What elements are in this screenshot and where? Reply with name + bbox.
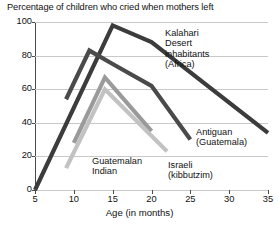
x-tick-label-10: 10 [69, 195, 79, 204]
y-tick-label-80: 80 [4, 51, 32, 60]
y-tick-mark-80 [32, 56, 35, 57]
x-tick-label-30: 30 [224, 195, 234, 204]
y-tick-label-20: 20 [4, 152, 32, 161]
chart-title: Percentage of children who cried when mo… [7, 2, 213, 12]
series-label-israeli: Israeli (kibbutzim) [168, 160, 213, 181]
series-label-guatemalan: Guatemalan Indian [92, 156, 142, 177]
x-tick-label-5: 5 [32, 195, 37, 204]
y-tick-label-60: 60 [4, 85, 32, 94]
chart-container: Percentage of children who cried when mo… [0, 0, 279, 226]
x-tick-label-20: 20 [146, 195, 156, 204]
series-label-kalahari: Kalahari Desert inhabitants (Africa) [165, 28, 209, 70]
y-tick-label-0: 0 [4, 185, 32, 194]
x-axis-title: Age (in months) [0, 207, 279, 218]
x-tick-label-25: 25 [185, 195, 195, 204]
y-tick-label-40: 40 [4, 118, 32, 127]
series-lines [35, 22, 268, 190]
series-line-0 [35, 25, 268, 190]
y-tick-mark-40 [32, 123, 35, 124]
x-tick-label-15: 15 [107, 195, 117, 204]
y-tick-mark-60 [32, 89, 35, 90]
y-tick-mark-100 [32, 22, 35, 23]
series-label-antiguan: Antiguan (Guatemala) [196, 127, 247, 148]
y-tick-mark-20 [32, 156, 35, 157]
plot-area [35, 22, 268, 190]
x-tick-label-35: 35 [263, 195, 273, 204]
y-tick-label-100: 100 [4, 17, 32, 26]
